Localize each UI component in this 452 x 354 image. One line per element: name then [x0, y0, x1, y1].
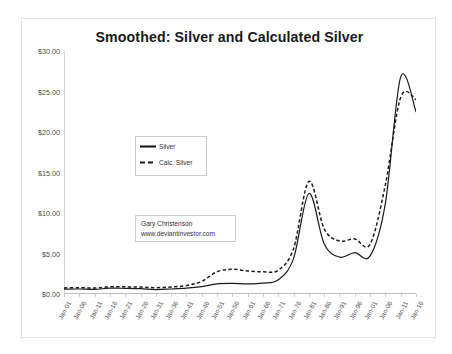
- legend-swatch-dashed-icon: [140, 160, 156, 165]
- x-axis-tick-mark: [171, 294, 172, 297]
- plot-lines: [64, 51, 416, 294]
- x-axis-tick-label: Jan-16: [409, 300, 424, 321]
- x-axis-tick-mark: [355, 294, 356, 297]
- x-axis-tick-mark: [370, 294, 371, 297]
- x-axis-tick-label: Jan-91: [332, 300, 347, 321]
- x-axis-tick-label: Jan-11: [394, 300, 409, 320]
- y-axis-tick-label: $25.00: [38, 87, 60, 96]
- x-axis-tick-mark: [186, 294, 187, 297]
- x-axis-tick-mark: [79, 294, 80, 297]
- y-axis-tick-label: $15.00: [38, 168, 60, 177]
- x-axis-tick-label: Jan-06: [378, 300, 393, 321]
- x-axis-tick-mark: [217, 294, 218, 297]
- x-axis-tick-label: Jan-81: [302, 300, 317, 321]
- x-axis-tick-label: Jan-76: [286, 300, 301, 321]
- x-axis-tick-label: Jan-01: [57, 300, 72, 321]
- x-axis-tick-label: Jan-11: [88, 300, 103, 320]
- x-axis-tick-mark: [232, 294, 233, 297]
- x-axis-tick-mark: [263, 294, 264, 297]
- x-axis-tick-mark: [416, 294, 417, 297]
- y-axis-tick-label: $0.00: [42, 290, 60, 299]
- x-axis-tick-mark: [248, 294, 249, 297]
- x-axis-tick-label: Jan-06: [72, 300, 87, 321]
- legend-item-calc-silver: Calc. Silver: [140, 159, 192, 166]
- series-line-silver: [64, 74, 416, 290]
- x-axis-tick-mark: [401, 294, 402, 297]
- x-axis-tick-label: Jan-61: [240, 300, 255, 321]
- x-axis-tick-mark: [125, 294, 126, 297]
- x-axis-tick-label: Jan-51: [210, 300, 225, 321]
- x-axis-tick-mark: [278, 294, 279, 297]
- x-axis-tick-mark: [309, 294, 310, 297]
- x-axis-tick-mark: [294, 294, 295, 297]
- x-axis-tick-label: Jan-56: [225, 300, 240, 321]
- legend-label-silver: Silver: [159, 143, 176, 150]
- annotation-author: Gary Christenson: [141, 219, 231, 229]
- y-axis-tick-label: $5.00: [42, 249, 60, 258]
- y-axis-tick-label: $30.00: [38, 47, 60, 56]
- x-axis-tick-label: Jan-41: [179, 300, 194, 321]
- x-axis-tick-mark: [110, 294, 111, 297]
- plot-area: $0.00$5.00$10.00$15.00$20.00$25.00$30.00…: [64, 51, 416, 294]
- x-axis-tick-mark: [339, 294, 340, 297]
- x-axis-tick-mark: [95, 294, 96, 297]
- x-axis-tick-label: Jan-46: [195, 300, 210, 321]
- y-axis-tick-label: $20.00: [38, 128, 60, 137]
- chart-screenshot: Smoothed: Silver and Calculated Silver $…: [0, 0, 452, 354]
- x-axis-tick-label: Jan-71: [271, 300, 286, 321]
- x-axis-tick-label: Jan-96: [348, 300, 363, 321]
- x-axis-tick-label: Jan-66: [256, 300, 271, 321]
- chart-legend: Silver Calc. Silver: [135, 136, 207, 176]
- x-axis-tick-label: Jan-16: [103, 300, 118, 321]
- chart-frame: Smoothed: Silver and Calculated Silver $…: [21, 18, 436, 338]
- chart-title: Smoothed: Silver and Calculated Silver: [22, 29, 437, 45]
- legend-label-calc-silver: Calc. Silver: [159, 159, 192, 166]
- x-axis-tick-label: Jan-86: [317, 300, 332, 321]
- x-axis-tick-label: Jan-01: [363, 300, 378, 321]
- x-axis-tick-label: Jan-21: [118, 300, 133, 321]
- x-axis-tick-mark: [64, 294, 65, 297]
- x-axis-tick-mark: [324, 294, 325, 297]
- x-axis-tick-mark: [385, 294, 386, 297]
- y-axis-tick-label: $10.00: [38, 209, 60, 218]
- x-axis-tick-mark: [141, 294, 142, 297]
- legend-swatch-solid-icon: [140, 144, 156, 149]
- x-axis-tick-mark: [156, 294, 157, 297]
- x-axis-tick-label: Jan-36: [164, 300, 179, 321]
- series-line-calc-silver: [64, 91, 416, 288]
- x-axis-tick-label: Jan-26: [133, 300, 148, 321]
- x-axis-tick-mark: [202, 294, 203, 297]
- annotation-website: www.deviantinvestor.com: [141, 229, 231, 239]
- x-axis-tick-label: Jan-31: [149, 300, 164, 321]
- chart-annotation: Gary Christenson www.deviantinvestor.com: [135, 215, 236, 242]
- legend-item-silver: Silver: [140, 143, 176, 150]
